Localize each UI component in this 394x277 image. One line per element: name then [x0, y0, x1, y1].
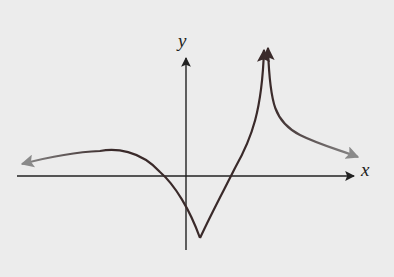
x-axis-label: x [361, 159, 369, 181]
curve-right-branch [268, 50, 358, 157]
curve-left-branch [22, 150, 200, 238]
curve-middle-branch [200, 50, 264, 238]
y-axis-label: y [178, 30, 186, 52]
function-graph [0, 0, 394, 277]
